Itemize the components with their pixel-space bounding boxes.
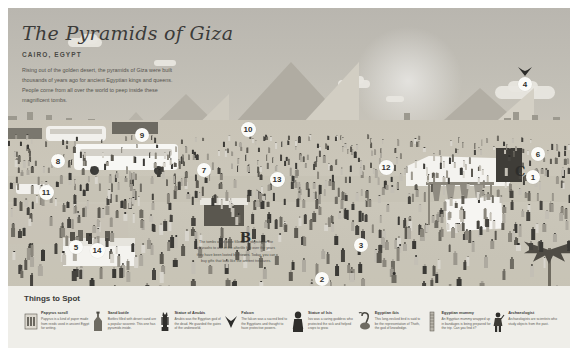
- crowd-figure: [370, 138, 372, 143]
- spot-marker-3[interactable]: 3: [354, 238, 368, 252]
- crowd-figure: [562, 167, 564, 176]
- legend-item-description: An Egyptian mummy wrapped up in bandages…: [442, 317, 492, 332]
- crowd-figure: [440, 227, 443, 236]
- spot-marker-10[interactable]: 10: [241, 122, 256, 137]
- crowd-figure: [412, 193, 414, 202]
- spot-marker-14[interactable]: 14: [90, 243, 105, 258]
- crowd-figure: [136, 144, 138, 148]
- crowd-figure: [104, 163, 106, 170]
- spot-marker-9[interactable]: 9: [135, 128, 149, 142]
- crowd-figure: [497, 189, 500, 196]
- legend-item-archaeologist: ArchaeologistArchaeologists are scientis…: [491, 310, 558, 336]
- crowd-figure: [513, 151, 515, 158]
- crowd-figure: [462, 171, 465, 179]
- crowd-figure: [500, 195, 503, 203]
- crowd-figure: [326, 143, 328, 149]
- crowd-figure: [463, 260, 466, 270]
- spot-marker-11[interactable]: 11: [39, 185, 54, 200]
- spot-marker-1[interactable]: 1: [526, 170, 540, 184]
- crowd-figure: [448, 244, 451, 253]
- crowd-figure: [342, 137, 344, 143]
- crowd-figure: [328, 135, 330, 140]
- crowd-figure: [289, 167, 292, 176]
- crowd-figure: [569, 194, 570, 204]
- crowd-figure: [174, 162, 177, 167]
- crowd-figure: [530, 139, 532, 144]
- crowd-figure: [288, 270, 292, 281]
- crowd-figure: [510, 257, 514, 269]
- crowd-figure: [415, 255, 419, 265]
- crowd-figure: [529, 241, 533, 250]
- crowd-figure: [110, 231, 114, 242]
- crowd-figure: [134, 156, 136, 164]
- crowd-figure: [350, 146, 352, 152]
- crowd-figure: [365, 190, 368, 198]
- crowd-figure: [235, 215, 238, 226]
- location-subtitle: CAIRO, EGYPT: [22, 51, 206, 58]
- crowd-figure: [497, 135, 499, 141]
- crowd-figure: [266, 154, 268, 161]
- crowd-figure: [209, 265, 212, 274]
- spot-marker-13[interactable]: 13: [270, 172, 285, 187]
- crowd-figure: [175, 235, 178, 248]
- crowd-figure: [406, 166, 408, 173]
- crowd-figure: [449, 157, 451, 164]
- legend-item-description: This long-necked bird is said to be the …: [375, 317, 425, 332]
- crowd-figure: [452, 154, 454, 162]
- crowd-figure: [435, 220, 438, 228]
- crowd-figure: [154, 162, 157, 168]
- crowd-figure: [196, 180, 198, 188]
- crowd-figure: [359, 262, 363, 274]
- crowd-figure: [11, 226, 15, 236]
- crowd-figure: [332, 174, 334, 182]
- letter-marker-B[interactable]: B: [240, 230, 251, 245]
- crowd-figure: [124, 212, 127, 221]
- crowd-figure: [466, 256, 469, 266]
- crowd-figure: [220, 173, 222, 180]
- crowd-figure: [169, 220, 172, 231]
- letter-marker-C[interactable]: C: [515, 164, 525, 179]
- crowd-figure: [398, 139, 400, 146]
- legend-item-text: Papyrus scrollPapyrus is a kind of paper…: [41, 310, 91, 336]
- crowd-figure: [341, 248, 345, 262]
- tomb-caption: The tombs were once filled with objects …: [194, 239, 278, 264]
- crowd-figure: [84, 152, 86, 158]
- spot-marker-4[interactable]: 4: [518, 77, 532, 91]
- crowd-figure: [92, 225, 96, 234]
- crowd-figure: [296, 169, 298, 177]
- crowd-figure: [196, 154, 199, 161]
- crowd-figure: [80, 151, 82, 159]
- crowd-figure: [298, 216, 301, 226]
- crowd-figure: [99, 183, 101, 191]
- crowd-figure: [528, 191, 531, 200]
- crowd-figure: [437, 259, 440, 269]
- crowd-figure: [229, 135, 231, 141]
- crowd-figure: [446, 223, 449, 231]
- crowd-figure: [454, 162, 456, 169]
- crowd-figure: [278, 233, 281, 241]
- crowd-figure: [192, 154, 195, 160]
- spot-marker-6[interactable]: 6: [531, 147, 545, 161]
- crowd-figure: [106, 205, 109, 215]
- archaeologist-icon: [491, 310, 505, 336]
- spot-marker-5[interactable]: 5: [69, 240, 83, 254]
- crowd-figure: [134, 255, 138, 268]
- crowd-figure: [504, 149, 506, 154]
- legend-item-description: Papyrus is a kind of paper made from ree…: [41, 317, 91, 332]
- crowd-figure: [185, 229, 189, 242]
- crowd-figure: [238, 158, 240, 164]
- crowd-figure: [30, 256, 34, 268]
- spot-marker-7[interactable]: 7: [197, 163, 211, 177]
- crowd-figure: [26, 135, 28, 141]
- crowd-figure: [411, 171, 413, 180]
- crowd-figure: [257, 171, 260, 177]
- crowd-figure: [472, 241, 475, 253]
- crowd-figure: [458, 137, 460, 144]
- crowd-figure: [78, 215, 81, 223]
- crowd-figure: [71, 159, 73, 165]
- spot-marker-2[interactable]: 2: [315, 272, 329, 286]
- spot-marker-8[interactable]: 8: [51, 154, 65, 168]
- crowd-figure: [202, 137, 204, 142]
- spot-marker-12[interactable]: 12: [379, 160, 394, 175]
- crowd-figure: [195, 137, 197, 142]
